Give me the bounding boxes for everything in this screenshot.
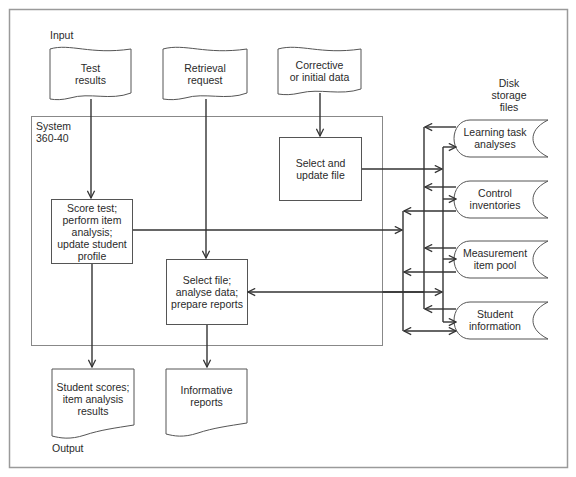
disk-label-line3: files bbox=[484, 101, 534, 113]
output-doc-informative-reports: Informative reports bbox=[166, 382, 247, 410]
input-label: Input bbox=[50, 29, 73, 41]
process-text: perform item bbox=[63, 214, 122, 226]
process-text: Select file; bbox=[183, 274, 231, 286]
process-text: analyse data; bbox=[176, 286, 238, 298]
flow-lines bbox=[91, 93, 456, 367]
disk-label-line1: Disk bbox=[484, 77, 534, 89]
input-text: Corrective bbox=[296, 59, 344, 71]
storage-text: Measurement bbox=[463, 247, 527, 259]
process-select-update-file: Select and update file bbox=[279, 137, 362, 201]
output-text: Student scores; bbox=[57, 381, 130, 393]
input-doc-corrective-data: Corrective or initial data bbox=[278, 57, 361, 85]
process-select-file-reports: Select file; analyse data; prepare repor… bbox=[166, 259, 248, 325]
output-label: Output bbox=[52, 442, 84, 454]
disk-storage-label: Disk storage files bbox=[484, 77, 534, 113]
storage-text: information bbox=[469, 320, 521, 332]
storage-text: Student bbox=[477, 308, 513, 320]
input-doc-test-results: Test results bbox=[50, 60, 131, 88]
process-text: analysis; bbox=[72, 226, 113, 238]
process-score-test: Score test; perform item analysis; updat… bbox=[51, 199, 133, 264]
input-doc-retrieval-request: Retrieval request bbox=[163, 60, 247, 88]
output-text: Informative bbox=[181, 384, 233, 396]
output-doc-student-scores: Student scores; item analysis results bbox=[52, 380, 134, 418]
process-text: Score test; bbox=[67, 202, 117, 214]
storage-text: item pool bbox=[474, 259, 517, 271]
storage-measurement-item-pool: Measurement item pool bbox=[456, 245, 534, 273]
output-text: reports bbox=[190, 396, 223, 408]
storage-learning-task-analyses: Learning task analyses bbox=[456, 124, 534, 152]
storage-text: inventories bbox=[470, 199, 521, 211]
input-text: results bbox=[75, 74, 106, 86]
process-text: profile bbox=[78, 250, 107, 262]
input-text: Retrieval bbox=[184, 62, 225, 74]
storage-text: analyses bbox=[474, 138, 515, 150]
process-text: prepare reports bbox=[171, 298, 243, 310]
system-label-line2: 360-40 bbox=[36, 132, 71, 144]
input-text: request bbox=[187, 74, 222, 86]
system-label-line1: System bbox=[36, 120, 71, 132]
input-text: Test bbox=[81, 62, 100, 74]
output-text: results bbox=[78, 405, 109, 417]
input-text: or initial data bbox=[290, 71, 350, 83]
process-text: Select and bbox=[296, 157, 346, 169]
storage-text: Control bbox=[478, 187, 512, 199]
system-label: System 360-40 bbox=[36, 120, 71, 144]
output-text: item analysis bbox=[63, 393, 124, 405]
disk-label-line2: storage bbox=[484, 89, 534, 101]
process-text: update student bbox=[57, 238, 126, 250]
process-text: update file bbox=[296, 169, 344, 181]
storage-student-information: Student information bbox=[456, 306, 534, 334]
storage-control-inventories: Control inventories bbox=[456, 185, 534, 213]
storage-text: Learning task bbox=[463, 126, 526, 138]
